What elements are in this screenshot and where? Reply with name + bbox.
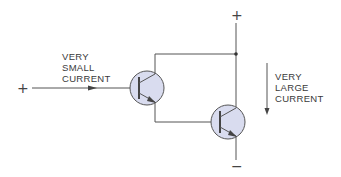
output-label-line-1: VERY bbox=[275, 71, 302, 82]
input-current-arrow-icon bbox=[88, 86, 97, 91]
t1-collector-wire bbox=[155, 54, 236, 74]
output-label-line-2: LARGE bbox=[275, 82, 309, 93]
input-label-line-3: CURRENT bbox=[62, 73, 111, 84]
output-current-arrow-icon bbox=[265, 108, 270, 115]
transistor-t2 bbox=[211, 105, 245, 139]
input-plus-terminal: + bbox=[17, 80, 29, 96]
darlington-circuit-diagram: + VERY SMALL CURRENT + − VERY LARGE CURR… bbox=[0, 0, 341, 177]
supply-plus-terminal: + bbox=[231, 7, 243, 23]
junction-dot bbox=[234, 52, 238, 56]
supply-minus-terminal: − bbox=[231, 158, 243, 174]
output-label-line-3: CURRENT bbox=[275, 93, 324, 104]
input-label-line-2: SMALL bbox=[62, 62, 95, 73]
input-label-line-1: VERY bbox=[62, 51, 89, 62]
transistor-t1 bbox=[130, 71, 164, 105]
t1-emitter-to-t2-base-wire bbox=[155, 102, 220, 122]
